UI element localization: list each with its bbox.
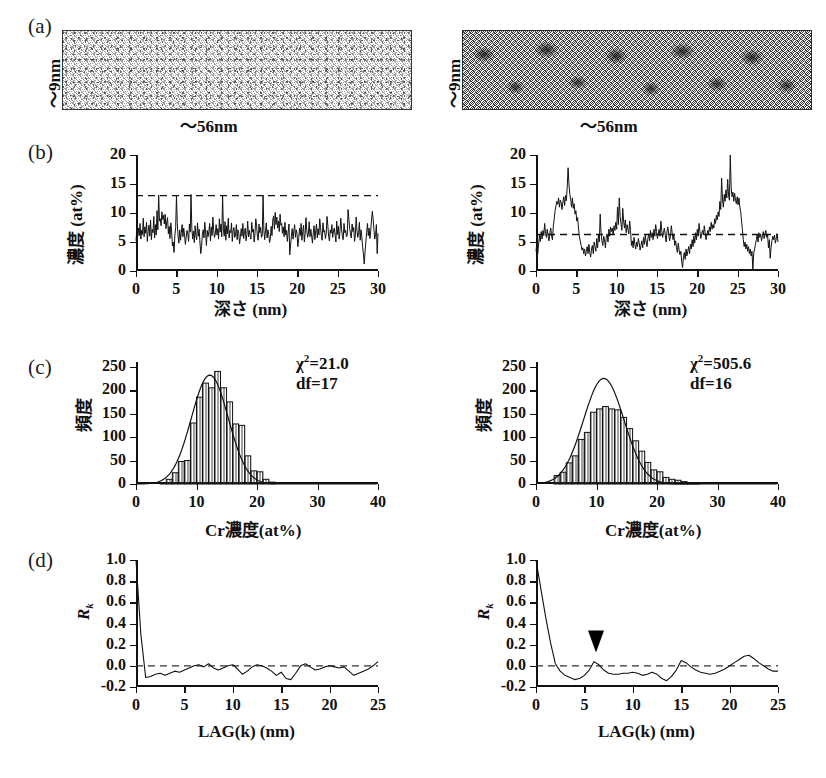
y-tick-label: 100	[76, 427, 126, 445]
x-tick-label: 5	[560, 280, 592, 298]
y-tick-label: 250	[476, 357, 526, 375]
x-tick	[136, 271, 137, 277]
x-tick-label: 20	[281, 280, 313, 298]
y-tick-label: 0	[76, 474, 126, 492]
y-tick-label: 50	[476, 451, 526, 469]
y-tick	[130, 624, 136, 625]
y-tick	[530, 184, 536, 185]
y-tick-label: 20	[76, 145, 126, 163]
x-tick-label: 40	[762, 493, 794, 511]
x-tick-label: 10	[617, 696, 649, 714]
histogram-bar	[603, 407, 609, 484]
histogram-bar	[615, 410, 621, 484]
x-tick-label: 0	[520, 280, 552, 298]
y-tick	[130, 645, 136, 646]
y-tick-label: 15	[76, 174, 126, 192]
histogram-bar	[572, 456, 578, 484]
x-tick	[597, 484, 598, 490]
y-tick-label: 1.0	[76, 550, 126, 568]
concentration-profile-line	[536, 155, 778, 270]
x-tick	[338, 271, 339, 277]
y-tick-label: 0.4	[476, 614, 526, 632]
histogram-bar	[566, 463, 572, 484]
y-tick	[130, 414, 136, 415]
chart-b-right	[536, 155, 778, 271]
y-tick-label: 1.0	[476, 550, 526, 568]
y-tick	[530, 666, 536, 667]
histogram-bar	[190, 423, 196, 484]
y-tick	[130, 437, 136, 438]
concentration-profile-line	[136, 194, 378, 264]
binomial-fit-curve	[136, 375, 377, 484]
histogram-bar	[184, 461, 190, 484]
y-tick	[130, 184, 136, 185]
x-tick-label: 25	[722, 280, 754, 298]
y-tick	[530, 271, 536, 272]
x-tick-label: 20	[314, 696, 346, 714]
y-tick-label: 0.4	[76, 614, 126, 632]
x-tick	[257, 484, 258, 490]
b-left-xlabel: 深さ (nm)	[214, 295, 287, 320]
histogram-bar	[597, 409, 603, 484]
x-tick	[778, 271, 779, 277]
y-tick	[530, 645, 536, 646]
x-tick	[536, 484, 537, 490]
histogram-bar	[172, 473, 178, 484]
y-tick	[130, 484, 136, 485]
y-tick-label: 200	[476, 380, 526, 398]
x-tick-label: 30	[702, 493, 734, 511]
x-tick-label: 15	[665, 696, 697, 714]
y-tick-label: 150	[76, 404, 126, 422]
histogram-bar	[590, 412, 596, 484]
x-tick	[217, 271, 218, 277]
y-tick-label: 0	[76, 261, 126, 279]
y-tick-label: 0	[476, 261, 526, 279]
x-tick	[738, 271, 739, 277]
x-tick-label: 15	[641, 280, 673, 298]
y-tick	[530, 390, 536, 391]
x-tick-label: 25	[322, 280, 354, 298]
y-tick	[130, 666, 136, 667]
panel-label-b: (b)	[28, 140, 53, 165]
y-tick	[530, 461, 536, 462]
atom-map-left	[62, 30, 410, 108]
x-tick	[281, 687, 282, 693]
x-tick	[257, 271, 258, 277]
y-tick	[130, 461, 136, 462]
histogram-bar	[560, 472, 566, 484]
c-left-df-annotation: df=17	[296, 374, 338, 394]
x-tick-label: 10	[181, 493, 213, 511]
x-tick-label: 25	[762, 696, 794, 714]
y-tick-label: 5	[476, 232, 526, 250]
x-tick	[633, 687, 634, 693]
atom-map-clustered-texture	[462, 30, 812, 110]
y-tick	[130, 687, 136, 688]
y-tick	[130, 213, 136, 214]
atom-map-right	[462, 30, 810, 108]
x-tick-label: 0	[520, 696, 552, 714]
x-tick	[584, 687, 585, 693]
x-tick-label: 15	[265, 696, 297, 714]
y-tick	[530, 437, 536, 438]
y-tick-label: 10	[476, 203, 526, 221]
x-tick-label: 25	[362, 696, 394, 714]
y-tick	[130, 602, 136, 603]
panel-label-d: (d)	[28, 548, 53, 573]
y-tick	[530, 624, 536, 625]
panel-label-c: (c)	[28, 355, 52, 380]
y-tick	[130, 560, 136, 561]
x-tick	[136, 484, 137, 490]
x-tick-label: 10	[601, 280, 633, 298]
chi-value: =505.6	[703, 354, 751, 373]
y-tick-label: 0.6	[76, 592, 126, 610]
y-tick	[130, 242, 136, 243]
y-tick-label: 0.0	[76, 656, 126, 674]
x-tick	[318, 484, 319, 490]
y-tick	[530, 581, 536, 582]
y-tick-label: 200	[76, 380, 126, 398]
y-tick-label: 0.6	[476, 592, 526, 610]
y-tick	[130, 155, 136, 156]
x-tick	[233, 687, 234, 693]
histogram-bar	[197, 397, 203, 484]
x-tick-label: 0	[120, 696, 152, 714]
